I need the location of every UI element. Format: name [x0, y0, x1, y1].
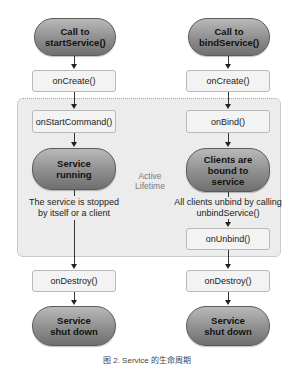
arrow-down-icon: [225, 300, 231, 305]
arrow-down-icon: [71, 142, 77, 147]
figure-caption: 图 2. Service 的生命周期: [0, 354, 294, 365]
service-running-node: Service running: [32, 148, 116, 190]
active-lifetime-label: Active Lifetime: [122, 171, 178, 191]
connector: [74, 220, 75, 264]
right-ondestroy-text: onDestroy(): [204, 276, 251, 286]
arrow-down-icon: [225, 264, 231, 269]
connector: [228, 133, 229, 142]
active-word: Active: [138, 171, 161, 181]
onunbind-node: onUnbind(): [186, 228, 270, 250]
unbind-note-text: All clients unbind by calling unbindServ…: [174, 197, 282, 218]
arrow-down-icon: [71, 300, 77, 305]
stop-note: The service is stopped by itself or a cl…: [24, 197, 124, 219]
onbind-node: onBind(): [186, 110, 270, 133]
call-bind-service-text: Call to bindService(): [199, 26, 259, 48]
call-start-service-node: Call to startService(): [34, 18, 116, 56]
clients-bound-text: Clients are bound to service: [200, 154, 256, 187]
connector: [74, 190, 75, 196]
connector: [74, 92, 75, 104]
arrow-down-icon: [71, 64, 77, 69]
clients-bound-node: Clients are bound to service: [186, 148, 270, 192]
service-running-text: Service running: [49, 158, 99, 180]
right-ondestroy-node: onDestroy(): [186, 270, 270, 292]
right-shut-down-node: Service shut down: [186, 306, 270, 346]
onstartcommand-node: onStartCommand(): [32, 110, 116, 133]
left-shut-down-node: Service shut down: [32, 306, 116, 346]
left-ondestroy-text: onDestroy(): [50, 276, 97, 286]
stop-note-text: The service is stopped by itself or a cl…: [29, 197, 119, 218]
call-bind-service-node: Call to bindService(): [188, 18, 270, 56]
onstartcommand-text: onStartCommand(): [36, 117, 113, 127]
call-start-service-text: Call to startService(): [45, 26, 105, 48]
connector: [228, 92, 229, 104]
onbind-text: onBind(): [211, 117, 245, 127]
unbind-note: All clients unbind by calling unbindServ…: [172, 197, 284, 219]
right-oncreate-node: onCreate(): [186, 70, 270, 92]
arrow-down-icon: [71, 104, 77, 109]
arrow-down-icon: [225, 104, 231, 109]
arrow-down-icon: [225, 222, 231, 227]
lifetime-word: Lifetime: [135, 181, 165, 191]
right-shut-down-text: Service shut down: [203, 315, 253, 337]
connector: [228, 250, 229, 264]
left-oncreate-text: onCreate(): [52, 76, 95, 86]
left-oncreate-node: onCreate(): [32, 70, 116, 92]
onunbind-text: onUnbind(): [206, 234, 251, 244]
left-shut-down-text: Service shut down: [49, 315, 99, 337]
arrow-down-icon: [225, 142, 231, 147]
arrow-down-icon: [225, 64, 231, 69]
left-ondestroy-node: onDestroy(): [32, 270, 116, 292]
right-oncreate-text: onCreate(): [206, 76, 249, 86]
connector: [74, 133, 75, 142]
arrow-down-icon: [71, 264, 77, 269]
